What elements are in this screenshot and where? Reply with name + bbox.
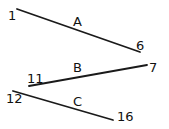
segment-c-start-label: 12 (6, 91, 23, 106)
segment-b-line (29, 65, 147, 86)
segment-b-start-label: 11 (27, 71, 44, 86)
segment-c-end-label: 16 (117, 109, 134, 124)
segment-b-name: B (73, 60, 82, 75)
segment-c: C 12 16 (6, 91, 134, 124)
segment-a-name: A (73, 14, 82, 29)
segment-c-line (13, 91, 113, 120)
segment-c-name: C (73, 94, 82, 109)
line-segments-diagram: A 1 6 B 11 7 C 12 16 (0, 0, 169, 129)
segment-b: B 11 7 (27, 60, 157, 86)
segment-b-end-label: 7 (149, 60, 157, 75)
segment-a: A 1 6 (8, 8, 144, 53)
segment-a-start-label: 1 (8, 8, 16, 23)
segment-a-end-label: 6 (136, 38, 144, 53)
